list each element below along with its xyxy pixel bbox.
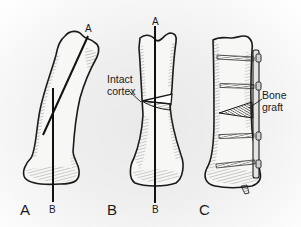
axis-label-b-bottom: B [152,205,159,215]
callout-bone-graft: Bone graft [262,89,287,113]
callout-intact-cortex-line2: cortex [107,85,136,97]
callout-bone-graft-line2: graft [262,101,287,113]
callout-intact-cortex: Intact cortex [107,73,136,97]
bone-a [24,31,99,202]
panel-label-a: A [20,202,30,217]
bone-c [205,36,262,194]
osteotomy-diagram: A B A A B B Intact cortex C Bone graft [0,0,301,227]
callout-intact-cortex-line1: Intact [107,73,136,85]
axis-label-b-top: A [152,17,159,27]
axis-label-a-bottom: B [49,205,56,215]
bone-b [130,26,183,203]
axis-label-a-top: A [85,24,92,34]
panel-label-b: B [107,202,117,217]
panel-label-c: C [199,202,210,217]
diagram-artwork [0,0,301,227]
callout-bone-graft-line1: Bone [262,89,287,101]
